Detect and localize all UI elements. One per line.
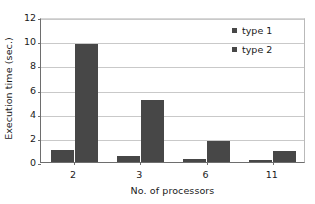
x-axis-tick-labels: 23611 bbox=[40, 168, 305, 182]
y-axis-tick-labels: 024681012 bbox=[14, 18, 36, 163]
bar[interactable] bbox=[141, 100, 164, 162]
legend-swatch-icon bbox=[232, 28, 237, 33]
x-axis-title: No. of processors bbox=[40, 184, 305, 197]
y-axis-tick-mark bbox=[38, 164, 41, 165]
x-axis-tick-label: 6 bbox=[186, 168, 226, 182]
bar[interactable] bbox=[249, 160, 272, 162]
x-axis-tick-label: 2 bbox=[53, 168, 93, 182]
bar[interactable] bbox=[183, 159, 206, 162]
bar-group bbox=[117, 19, 164, 162]
y-axis-tick-label: 6 bbox=[14, 85, 36, 97]
x-axis-tick-mark bbox=[207, 162, 208, 165]
y-axis-tick-label: 4 bbox=[14, 109, 36, 121]
bar[interactable] bbox=[273, 151, 296, 162]
x-axis-tick-label: 3 bbox=[119, 168, 159, 182]
bar[interactable] bbox=[75, 44, 98, 162]
bar[interactable] bbox=[207, 141, 230, 162]
y-axis-tick-label: 0 bbox=[14, 157, 36, 169]
x-axis-tick-label: 11 bbox=[252, 168, 292, 182]
x-axis-tick-mark bbox=[140, 162, 141, 165]
chart-legend: type 1type 2 bbox=[232, 21, 298, 59]
y-axis-tick-label: 2 bbox=[14, 133, 36, 145]
legend-item[interactable]: type 2 bbox=[232, 40, 298, 59]
x-axis-tick-mark bbox=[74, 162, 75, 165]
bar[interactable] bbox=[51, 150, 74, 162]
y-axis-tick-label: 12 bbox=[14, 12, 36, 24]
y-axis-tick-label: 8 bbox=[14, 60, 36, 72]
legend-label: type 2 bbox=[242, 44, 272, 56]
bar[interactable] bbox=[117, 156, 140, 162]
bar-chart: Execution time (sec.) 024681012 23611 No… bbox=[0, 0, 315, 204]
bar-group bbox=[51, 19, 98, 162]
legend-swatch-icon bbox=[232, 47, 237, 52]
bar-group bbox=[183, 19, 230, 162]
legend-item[interactable]: type 1 bbox=[232, 21, 298, 40]
legend-label: type 1 bbox=[242, 25, 272, 37]
x-axis-tick-mark bbox=[273, 162, 274, 165]
y-axis-tick-label: 10 bbox=[14, 36, 36, 48]
